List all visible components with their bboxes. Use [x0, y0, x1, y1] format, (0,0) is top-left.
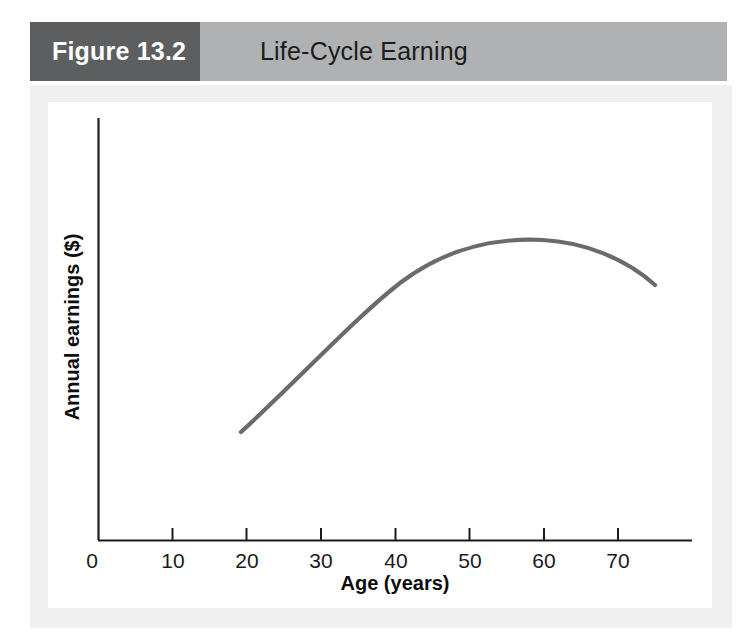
x-tick-label-0: 0	[69, 549, 115, 573]
x-tick-label-20: 20	[224, 549, 270, 573]
x-tick-label-10: 10	[150, 549, 196, 573]
plot-panel	[48, 102, 712, 608]
figure-number-tag: Figure 13.2	[30, 22, 200, 81]
x-tick-label-60: 60	[521, 549, 567, 573]
y-axis-title: Annual earnings ($)	[61, 234, 84, 421]
figure-title: Life-Cycle Earning	[230, 22, 468, 81]
x-tick-label-70: 70	[595, 549, 641, 573]
x-tick-label-50: 50	[447, 549, 493, 573]
figure-container: Figure 13.2 Life-Cycle Earning 0 10 20 3…	[0, 0, 756, 643]
x-tick-label-30: 30	[298, 549, 344, 573]
x-tick-label-40: 40	[373, 549, 419, 573]
x-axis-title: Age (years)	[98, 572, 692, 595]
figure-header-bar: Figure 13.2 Life-Cycle Earning	[30, 22, 727, 81]
